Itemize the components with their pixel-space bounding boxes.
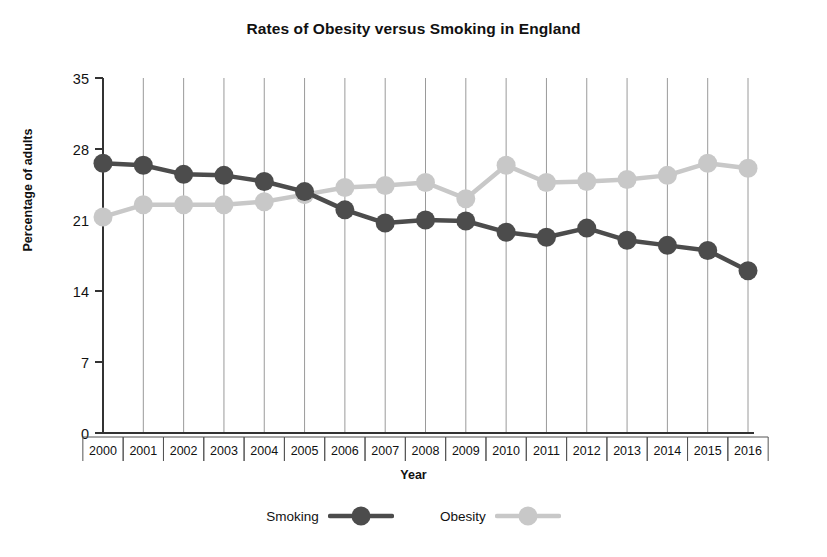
grid-lines xyxy=(103,78,748,433)
x-tick-label: 2010 xyxy=(492,444,520,458)
data-point xyxy=(497,223,516,242)
legend-item-obesity: Obesity xyxy=(440,505,561,527)
axes xyxy=(95,78,754,433)
data-point xyxy=(739,159,758,178)
data-point xyxy=(416,211,435,230)
x-tick-label: 2005 xyxy=(291,444,319,458)
x-axis-label: Year xyxy=(0,468,827,482)
data-point xyxy=(335,200,354,219)
data-point xyxy=(658,236,677,255)
data-point xyxy=(376,214,395,233)
data-point xyxy=(497,156,516,175)
data-point xyxy=(416,173,435,192)
x-tick-label: 2009 xyxy=(452,444,480,458)
data-point xyxy=(214,195,233,214)
x-tick-label: 2003 xyxy=(210,444,238,458)
chart-legend: SmokingObesity xyxy=(0,505,827,527)
data-point xyxy=(739,261,758,280)
plot-area: 0714212835 20002001200220032004200520062… xyxy=(0,0,827,500)
x-tick-label: 2001 xyxy=(129,444,157,458)
legend-item-smoking: Smoking xyxy=(266,505,394,527)
x-tick-label: 2002 xyxy=(170,444,198,458)
x-tick-label: 2014 xyxy=(653,444,681,458)
data-point xyxy=(537,228,556,247)
y-tick-labels: 0714212835 xyxy=(73,71,89,442)
data-point xyxy=(94,207,113,226)
data-point xyxy=(658,166,677,185)
x-tick-label: 2013 xyxy=(613,444,641,458)
x-tick-label: 2008 xyxy=(412,444,440,458)
x-tick-label: 2004 xyxy=(250,444,278,458)
legend-label: Obesity xyxy=(440,509,486,524)
data-point xyxy=(376,176,395,195)
y-tick-label: 35 xyxy=(73,71,89,87)
y-tick-label: 0 xyxy=(81,426,89,442)
data-point xyxy=(255,192,274,211)
data-point xyxy=(174,195,193,214)
data-point xyxy=(618,170,637,189)
data-point xyxy=(335,178,354,197)
data-point xyxy=(698,154,717,173)
legend-label: Smoking xyxy=(266,509,319,524)
x-tick-label: 2000 xyxy=(89,444,117,458)
data-point xyxy=(174,165,193,184)
x-tick-label: 2006 xyxy=(331,444,359,458)
data-point xyxy=(255,172,274,191)
data-point xyxy=(456,189,475,208)
x-tick-label: 2011 xyxy=(533,444,560,458)
data-point xyxy=(134,156,153,175)
y-tick-label: 21 xyxy=(73,213,89,229)
data-point xyxy=(577,219,596,238)
data-point xyxy=(214,166,233,185)
data-point xyxy=(456,212,475,231)
y-tick-label: 28 xyxy=(73,142,89,158)
x-tick-label: 2015 xyxy=(694,444,722,458)
y-tick-label: 14 xyxy=(73,284,89,300)
chart-container: Rates of Obesity versus Smoking in Engla… xyxy=(0,0,827,557)
data-point xyxy=(577,172,596,191)
x-tick-label: 2012 xyxy=(573,444,601,458)
x-tick-label: 2016 xyxy=(734,444,762,458)
x-tick-cells: 2000200120022003200420052006200720082009… xyxy=(83,437,768,461)
data-point xyxy=(618,231,637,250)
y-tick-label: 7 xyxy=(81,355,89,371)
legend-marker-icon xyxy=(495,505,561,527)
data-point xyxy=(295,182,314,201)
data-point xyxy=(94,154,113,173)
data-point xyxy=(537,173,556,192)
x-tick-label: 2007 xyxy=(371,444,399,458)
legend-marker-icon xyxy=(328,505,394,527)
data-point xyxy=(134,195,153,214)
data-point xyxy=(698,241,717,260)
